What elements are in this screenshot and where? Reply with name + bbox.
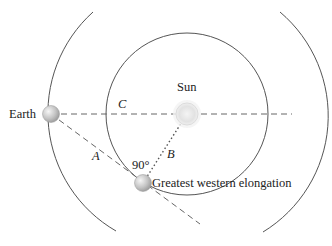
sun-icon (173, 100, 201, 128)
label-c: C (118, 97, 127, 111)
earth-icon (43, 106, 60, 123)
label-a: A (91, 149, 100, 163)
planet-icon (135, 175, 152, 192)
label-b: B (167, 147, 175, 161)
angle-label: 90° (132, 158, 150, 172)
line-a-sightline (51, 114, 200, 224)
sun-label: Sun (177, 80, 197, 94)
earth-orbit-left-arc (48, 12, 116, 231)
earth-orbit-right-arc (263, 12, 328, 232)
elongation-label: Greatest western elongation (152, 176, 292, 190)
elongation-diagram: Earth Sun Greatest western elongation 90… (0, 0, 332, 246)
earth-label: Earth (9, 107, 37, 121)
